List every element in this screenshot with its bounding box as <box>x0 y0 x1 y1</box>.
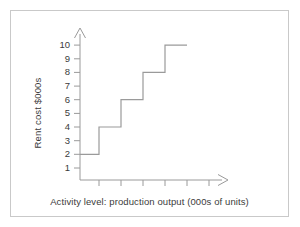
x-axis-label: Activity level: production output (000s … <box>10 196 289 207</box>
y-axis-group <box>74 28 86 180</box>
y-tick-label-6: 6 <box>52 95 70 105</box>
y-axis-label-text: Rent cost $000s <box>32 78 43 149</box>
y-tick-label-2: 2 <box>52 149 70 159</box>
y-tick-label-10: 10 <box>52 40 70 50</box>
x-axis-group <box>80 175 228 187</box>
y-tick-label-8: 8 <box>52 67 70 77</box>
y-tick-label-5: 5 <box>52 108 70 118</box>
step-chart-plot <box>0 0 300 227</box>
y-tick-label-1: 1 <box>52 163 70 173</box>
step-cost-line <box>80 45 187 154</box>
y-tick-label-4: 4 <box>52 122 70 132</box>
y-tick-label-3: 3 <box>52 136 70 146</box>
y-axis-label: Rent cost $000s <box>30 58 44 168</box>
y-tick-label-7: 7 <box>52 81 70 91</box>
figure-canvas: 10 9 8 7 6 5 4 3 2 1 Rent cost $000s Act… <box>0 0 300 227</box>
y-tick-label-9: 9 <box>52 54 70 64</box>
